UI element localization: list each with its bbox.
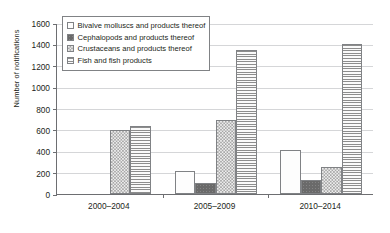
x-axis-tick bbox=[163, 194, 164, 198]
legend-item: Bivalve molluscs and products thereof bbox=[67, 20, 205, 32]
bar bbox=[195, 183, 216, 194]
bar bbox=[321, 167, 342, 194]
y-axis-tick-label: 200 bbox=[36, 169, 50, 177]
bar bbox=[280, 150, 301, 194]
legend-item: Crustaceans and products thereof bbox=[67, 43, 205, 55]
y-axis-tick bbox=[53, 152, 57, 153]
y-axis-tick bbox=[53, 130, 57, 131]
y-axis-tick-label: 1200 bbox=[32, 63, 50, 71]
bar-group bbox=[280, 24, 362, 194]
x-axis-label: 2010–2014 bbox=[299, 201, 341, 211]
legend-label: Crustaceans and products thereof bbox=[78, 45, 192, 53]
y-axis-tick bbox=[53, 109, 57, 110]
y-axis-tick bbox=[53, 45, 57, 46]
legend-swatch-icon bbox=[67, 22, 74, 29]
legend-item: Fish and fish products bbox=[67, 55, 205, 67]
bar bbox=[175, 171, 196, 194]
y-axis-title: Number of notifications bbox=[12, 9, 21, 129]
y-axis-tick-label: 0 bbox=[45, 191, 50, 199]
bar-chart: Number of notifications 0200400600800100… bbox=[0, 0, 390, 233]
legend-label: Fish and fish products bbox=[78, 57, 152, 65]
bar bbox=[110, 130, 131, 194]
y-axis-tick-label: 1000 bbox=[32, 84, 50, 92]
y-axis-tick bbox=[53, 24, 57, 25]
y-axis-tick bbox=[53, 88, 57, 89]
legend-label: Bivalve molluscs and products thereof bbox=[78, 22, 206, 30]
x-axis-label: 2000–2004 bbox=[88, 201, 130, 211]
y-axis-tick-label: 1400 bbox=[32, 41, 50, 49]
x-axis-label: 2005–2009 bbox=[194, 201, 236, 211]
y-axis-tick-label: 600 bbox=[36, 127, 50, 135]
legend-swatch-icon bbox=[67, 57, 74, 64]
y-axis-tick-label: 400 bbox=[36, 148, 50, 156]
y-axis-tick-label: 800 bbox=[36, 105, 50, 113]
x-axis-tick bbox=[268, 194, 269, 198]
y-axis-tick bbox=[53, 173, 57, 174]
legend-swatch-icon bbox=[67, 34, 74, 41]
legend-swatch-icon bbox=[67, 45, 74, 52]
y-axis-tick bbox=[53, 195, 57, 196]
bar bbox=[301, 180, 322, 194]
bar bbox=[216, 120, 237, 194]
y-axis-tick-label: 1600 bbox=[32, 20, 50, 28]
legend-label: Cephalopods and products thereof bbox=[78, 34, 195, 42]
y-axis-tick bbox=[53, 66, 57, 67]
legend-item: Cephalopods and products thereof bbox=[67, 32, 205, 44]
bar bbox=[236, 50, 257, 194]
bar bbox=[342, 44, 363, 194]
chart-legend: Bivalve molluscs and products thereofCep… bbox=[62, 16, 210, 71]
bar bbox=[130, 126, 151, 194]
x-axis-labels: 2000–20042005–20092010–2014 bbox=[56, 201, 373, 215]
